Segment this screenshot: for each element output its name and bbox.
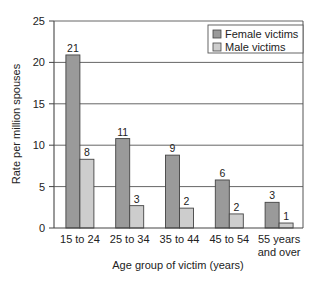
- x-tick-label: 35 to 44: [160, 233, 200, 245]
- bars: [66, 55, 293, 228]
- bar-female-victims: [116, 139, 130, 228]
- legend-label: Male victims: [225, 41, 286, 53]
- data-label: 2: [233, 201, 239, 213]
- legend-swatch: [213, 43, 221, 51]
- legend-swatch: [213, 30, 221, 38]
- legend: Female victimsMale victims: [208, 25, 303, 53]
- x-tick-label: 15 to 24: [60, 233, 100, 245]
- bar-female-victims: [265, 202, 279, 228]
- data-label: 2: [184, 195, 190, 207]
- x-tick-label: 25 to 34: [110, 233, 150, 245]
- y-tick-label: 25: [33, 15, 45, 27]
- y-axis-title: Rate per million spouses: [10, 63, 22, 184]
- y-tick-label: 15: [33, 98, 45, 110]
- x-axis-title: Age group of victim (years): [112, 259, 243, 271]
- data-label: 11: [117, 126, 128, 138]
- y-axis-ticks: 0510152025: [33, 15, 54, 234]
- data-label: 6: [219, 167, 225, 179]
- legend-label: Female victims: [225, 28, 299, 40]
- data-label: 8: [84, 146, 90, 158]
- bar-female-victims: [66, 55, 80, 228]
- y-tick-label: 0: [39, 222, 45, 234]
- y-tick-label: 20: [33, 56, 45, 68]
- bar-male-victims: [130, 206, 144, 228]
- y-tick-label: 10: [33, 139, 45, 151]
- x-tick-label: and over: [258, 246, 301, 258]
- data-label: 3: [269, 189, 275, 201]
- bar-male-victims: [229, 214, 243, 228]
- data-label: 1: [283, 210, 289, 222]
- data-label: 21: [67, 42, 79, 54]
- bar-male-victims: [80, 159, 94, 228]
- y-tick-label: 5: [39, 181, 45, 193]
- bar-female-victims: [166, 155, 180, 228]
- x-axis-ticks: 15 to 2425 to 3435 to 4445 to 5455 years…: [60, 233, 301, 258]
- data-label: 3: [134, 193, 140, 205]
- bar-male-victims: [279, 223, 293, 228]
- bar-chart: 0510152025 15 to 2425 to 3435 to 4445 to…: [0, 0, 319, 284]
- bar-male-victims: [180, 208, 194, 228]
- bar-female-victims: [215, 180, 229, 228]
- data-label: 9: [170, 142, 176, 154]
- x-tick-label: 45 to 54: [209, 233, 249, 245]
- x-tick-label: 55 years: [258, 233, 301, 245]
